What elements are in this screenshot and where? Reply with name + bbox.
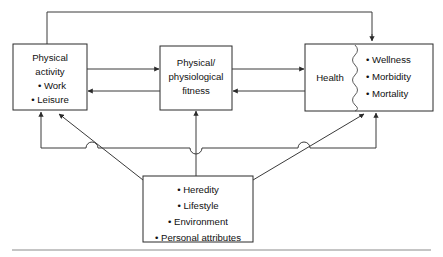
fitness-line-1: Physical/ bbox=[177, 57, 216, 68]
health-label: Health bbox=[316, 72, 344, 83]
physical-activity-line-1: Physical bbox=[32, 52, 68, 63]
node-health[interactable]: Health • Wellness • Morbidity • Mortalit… bbox=[305, 44, 433, 111]
node-fitness[interactable]: Physical/ physiological fitness bbox=[160, 46, 232, 110]
fitness-line-2: physiological bbox=[169, 71, 224, 82]
physical-activity-line-2: activity bbox=[35, 66, 65, 77]
physical-activity-line-3: • Work bbox=[38, 80, 66, 91]
other-factors-line-3: • Environment bbox=[168, 216, 228, 227]
diagram-canvas: Physical activity • Work • Leisure Physi… bbox=[0, 0, 443, 257]
other-factors-line-2: • Lifestyle bbox=[177, 200, 218, 211]
fitness-line-3: fitness bbox=[182, 85, 210, 96]
health-outcome-3: • Mortality bbox=[366, 88, 408, 99]
edge-activity-to-health-feedback bbox=[47, 12, 372, 44]
other-factors-line-4: • Personal attributes bbox=[155, 232, 241, 243]
figure-root: Physical activity • Work • Leisure Physi… bbox=[0, 0, 443, 257]
health-outcome-1: • Wellness bbox=[366, 54, 411, 65]
physical-activity-line-4: • Leisure bbox=[31, 94, 69, 105]
edge-bus-rail bbox=[41, 112, 376, 154]
node-physical-activity[interactable]: Physical activity • Work • Leisure bbox=[13, 44, 87, 110]
edge-factors-to-activity bbox=[59, 114, 143, 180]
other-factors-line-1: • Heredity bbox=[177, 184, 219, 195]
node-other-factors[interactable]: • Heredity • Lifestyle • Environment • P… bbox=[143, 176, 253, 243]
health-outcome-2: • Morbidity bbox=[366, 71, 411, 82]
edge-factors-to-health bbox=[253, 114, 364, 180]
